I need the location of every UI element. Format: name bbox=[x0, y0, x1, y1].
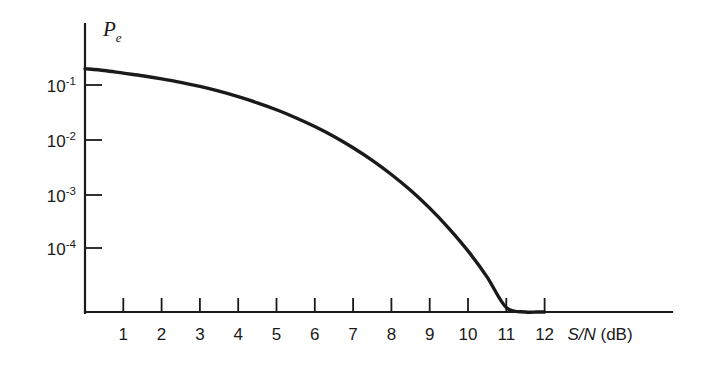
x-tick-label-11: 11 bbox=[497, 325, 515, 344]
x-tick-label-10: 10 bbox=[459, 325, 478, 344]
pe-vs-snr-chart: 10-1 10-2 10-3 10-4 Pe 123456789101112 S… bbox=[0, 0, 708, 366]
x-tick-label-1: 1 bbox=[119, 325, 128, 344]
x-tick-label-7: 7 bbox=[348, 325, 357, 344]
x-axis-title: S/N (dB) bbox=[567, 325, 632, 344]
x-tick-label-4: 4 bbox=[233, 325, 242, 344]
x-tick-label-2: 2 bbox=[157, 325, 166, 344]
x-tick-label-5: 5 bbox=[272, 325, 281, 344]
x-tick-label-8: 8 bbox=[387, 325, 396, 344]
x-tick-label-9: 9 bbox=[425, 325, 434, 344]
x-tick-label-6: 6 bbox=[310, 325, 319, 344]
x-tick-label-3: 3 bbox=[195, 325, 204, 344]
x-tick-label-12: 12 bbox=[535, 325, 554, 344]
